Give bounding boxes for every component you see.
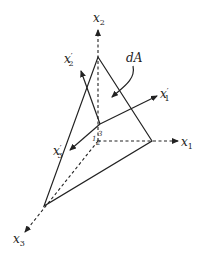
tetrahedron-diagram: x2 x1 x3 x′1 x′2 x′3 dA 1 3 2: [0, 0, 201, 255]
origin-mark-3: 3: [98, 130, 103, 138]
x2-label: x2: [93, 11, 105, 27]
x3-label: x3: [13, 232, 25, 248]
x3-prime-label: x′3: [53, 143, 63, 160]
rotated-axes: [70, 71, 157, 150]
dA-label: dA: [126, 51, 143, 65]
x1-prime-label: x′1: [160, 86, 170, 103]
origin-mark-2: 2: [95, 139, 101, 147]
dA-pointer-arrow: [112, 66, 133, 97]
x2-prime-label: x′2: [64, 51, 74, 68]
x1-prime-axis: [100, 96, 157, 124]
x1-label: x1: [181, 135, 193, 151]
